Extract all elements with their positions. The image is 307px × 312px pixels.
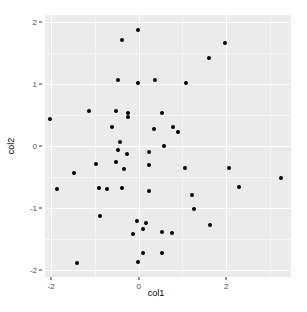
data-point <box>97 186 101 190</box>
grid-major-horizontal <box>45 270 291 271</box>
y-tick-mark <box>39 83 42 84</box>
data-point <box>183 166 187 170</box>
y-tick-label: 1 <box>33 79 37 88</box>
y-tick-mark <box>39 208 42 209</box>
x-axis-title-text: col1 <box>148 288 165 298</box>
x-tick-mark <box>138 277 139 280</box>
data-point <box>162 144 166 148</box>
y-tick-label: 2 <box>33 17 37 26</box>
data-point <box>141 227 145 231</box>
data-point <box>160 111 164 115</box>
y-tick-mark <box>39 270 42 271</box>
data-point <box>192 207 196 211</box>
grid-major-horizontal <box>45 208 291 209</box>
data-point <box>131 232 135 236</box>
data-point <box>144 221 148 225</box>
x-axis-title: col1 <box>22 288 290 298</box>
y-axis-title-text: col2 <box>6 138 16 155</box>
data-point <box>160 230 164 234</box>
grid-major-vertical <box>51 15 52 277</box>
grid-minor-horizontal <box>45 177 291 178</box>
grid-major-horizontal <box>45 146 291 147</box>
data-point <box>135 219 139 223</box>
y-tick-label: -1 <box>30 204 37 213</box>
grid-major-horizontal <box>45 22 291 23</box>
data-point <box>141 251 145 255</box>
data-point <box>152 127 156 131</box>
data-point <box>72 171 76 175</box>
grid-major-vertical <box>139 15 140 277</box>
data-point <box>184 81 188 85</box>
data-point <box>147 150 151 154</box>
data-point <box>118 140 122 144</box>
data-point <box>114 160 118 164</box>
data-point <box>87 109 91 113</box>
grid-major-horizontal <box>45 84 291 85</box>
data-point <box>125 152 129 156</box>
x-tick-mark <box>226 277 227 280</box>
data-point <box>147 163 151 167</box>
data-point <box>227 166 231 170</box>
data-point <box>120 38 124 42</box>
data-point <box>94 162 98 166</box>
data-point <box>105 187 109 191</box>
y-tick-label: -2 <box>30 266 37 275</box>
data-point <box>190 193 194 197</box>
data-point <box>98 214 102 218</box>
data-point <box>279 176 283 180</box>
data-point <box>153 78 157 82</box>
data-point <box>170 231 174 235</box>
scatter-plot: -2-1012 -202 col2 col1 <box>0 0 307 312</box>
data-point <box>75 261 79 265</box>
x-tick-mark <box>51 277 52 280</box>
data-point <box>110 125 114 129</box>
data-point <box>160 251 164 255</box>
data-point <box>237 185 241 189</box>
y-axis-title: col2 <box>0 0 22 292</box>
data-point <box>207 56 211 60</box>
data-point <box>120 186 124 190</box>
plot-panel <box>45 15 291 277</box>
data-point <box>114 109 118 113</box>
y-tick-label: 0 <box>33 142 37 151</box>
data-point <box>122 167 126 171</box>
data-point <box>55 187 59 191</box>
data-point <box>176 130 180 134</box>
data-point <box>171 125 175 129</box>
y-axis-tick-labels: -2-1012 <box>22 15 42 280</box>
y-tick-mark <box>39 146 42 147</box>
grid-minor-horizontal <box>45 53 291 54</box>
grid-minor-horizontal <box>45 239 291 240</box>
y-tick-mark <box>39 21 42 22</box>
data-point <box>116 148 120 152</box>
data-point <box>147 189 151 193</box>
data-point <box>208 223 212 227</box>
data-point <box>116 78 120 82</box>
data-point <box>126 115 130 119</box>
grid-minor-horizontal <box>45 115 291 116</box>
grid-major-vertical <box>226 15 227 277</box>
